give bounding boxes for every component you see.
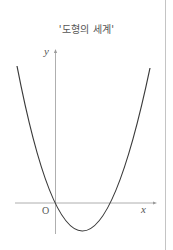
x-axis-arrow-icon bbox=[153, 201, 157, 204]
origin-label: O bbox=[42, 205, 49, 216]
x-axis-label: x bbox=[140, 203, 146, 215]
y-axis-label: y bbox=[43, 45, 49, 57]
y-axis-arrow-icon bbox=[54, 49, 57, 53]
parabola-graph: y x O bbox=[0, 0, 173, 250]
parabola-curve bbox=[17, 66, 150, 231]
